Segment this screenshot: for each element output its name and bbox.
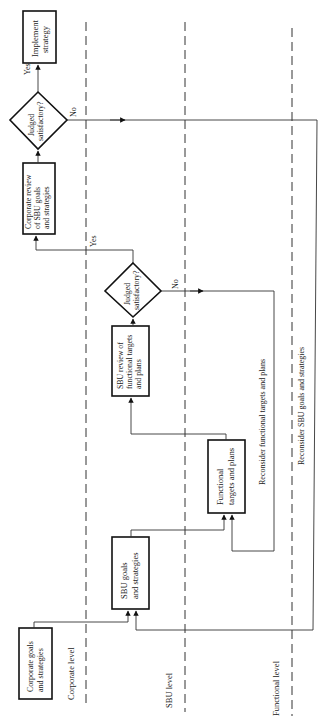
node-sbu-review: SBU review of functional targets and pla… [112,326,149,396]
svg-text:functional targets: functional targets [125,335,134,389]
svg-text:and strategies: and strategies [42,186,51,229]
svg-text:SBU goals: SBU goals [119,562,129,599]
svg-text:strategy: strategy [40,25,50,53]
label-reconsider-functional: Reconsider functional targets and plans [258,359,267,485]
functional-level-label: Functional level [271,660,281,716]
svg-text:Judged: Judged [123,283,132,305]
node-corporate-review: Corporate review of SBU goals and strate… [23,163,55,234]
svg-text:satisfactory?: satisfactory? [132,270,141,310]
svg-text:of SBU goals: of SBU goals [33,187,42,229]
label-corp-yes: Yes [23,63,32,75]
edge-corporate-goals-to-sbu-goals [34,611,128,628]
node-implement-strategy: Implement strategy [23,11,56,63]
node-functional-targets: Functional targets and plans [208,440,245,513]
edge-sbu-goals-to-functional [131,515,224,537]
svg-text:Judged: Judged [27,114,36,136]
svg-text:satisfactory?: satisfactory? [36,101,45,141]
node-sbu-decision: Judged satisfactory? [105,263,161,317]
label-reconsider-sbu: Reconsider SBU goals and strategies [297,347,306,465]
node-corporate-decision: Judged satisfactory? [10,92,67,149]
svg-text:and plans: and plans [134,359,143,389]
svg-text:Corporate review: Corporate review [24,174,33,229]
corporate-level-label: Corporate level [66,647,76,700]
label-sbu-no: No [171,279,180,289]
edge-functional-to-sbu-review [131,398,226,440]
edge-sbu-yes-to-corporate-review [36,236,133,263]
sbu-level-label: SBU level [164,672,174,708]
svg-text:Implement: Implement [30,20,40,57]
svg-text:Functional: Functional [215,468,225,505]
node-sbu-goals: SBU goals and strategies [112,537,149,609]
strategy-planning-flowchart: Corporate level SBU level Functional lev… [0,0,330,724]
edge-corporate-no-reconsider-sbu [67,120,317,630]
svg-text:SBU review of: SBU review of [116,342,125,389]
label-corp-no: No [69,107,78,117]
label-sbu-yes: Yes [89,235,98,247]
svg-text:Corporate goals: Corporate goals [26,641,35,692]
svg-text:and strategies: and strategies [36,648,45,692]
svg-text:targets and plans: targets and plans [226,448,236,505]
svg-text:and strategies: and strategies [130,553,140,600]
node-corporate-goals: Corporate goals and strategies [19,628,52,699]
